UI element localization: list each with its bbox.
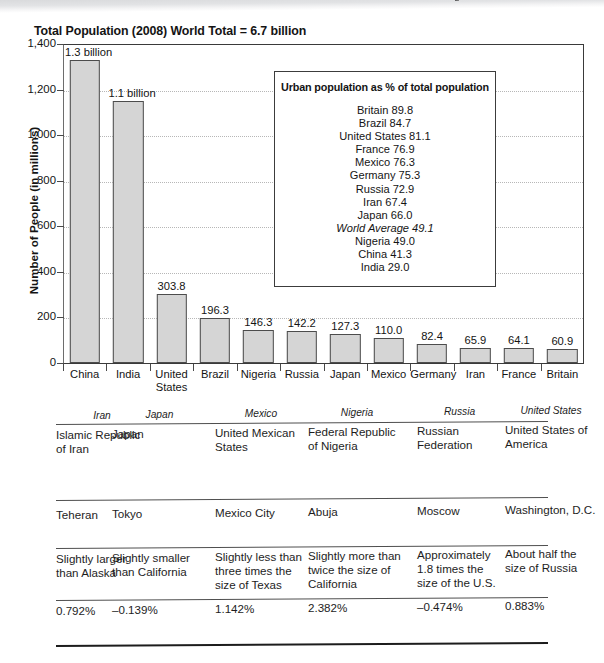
official-name-row-cell: Japan — [112, 427, 207, 441]
x-tick-mark — [237, 364, 238, 371]
table-column-header: United States — [505, 405, 597, 416]
x-category-label: Mexico — [367, 368, 410, 381]
urban-population-inset: Urban population as % of total populatio… — [274, 71, 496, 287]
official-name-row-cell: United Mexican States — [215, 426, 307, 454]
x-category-label: Germany — [410, 368, 453, 381]
x-category-label: India — [106, 368, 149, 381]
bar[interactable] — [156, 294, 186, 363]
y-tick-label: 800 — [8, 174, 56, 186]
x-category-label: Iran — [454, 368, 497, 381]
bar-slot: 303.8 — [150, 44, 193, 363]
area-comparison-row-cell: Approximately 1.8 times the size of the … — [417, 548, 502, 591]
area-comparison-row-cell: Slightly smaller than California — [112, 551, 207, 579]
bar-slot: 196.3 — [193, 44, 236, 363]
capital-row-cell: Washington, D.C. — [505, 503, 597, 517]
bar-value-label: 110.0 — [375, 324, 402, 336]
y-tick-mark — [57, 135, 64, 136]
official-name-row-cell: Federal Republic of Nigeria — [308, 425, 406, 453]
x-category-label: Britain — [541, 368, 584, 381]
bar[interactable] — [373, 338, 403, 363]
capital-row-cell: Tokyo — [112, 507, 207, 521]
inset-row: China 41.3 — [275, 248, 495, 261]
capital-row-cell: Moscow — [417, 504, 502, 518]
y-tick-label: 0 — [8, 356, 56, 368]
official-name-row-cell: United States of America — [505, 423, 597, 451]
x-category-label: China — [63, 368, 106, 381]
bar-slot: 60.9 — [541, 44, 584, 363]
scan-artifact-dot — [455, 0, 459, 1]
table-column-header: Japan — [112, 409, 207, 420]
x-tick-mark — [193, 364, 194, 371]
y-tick-label: 600 — [8, 219, 56, 231]
bar[interactable] — [200, 318, 230, 363]
bar-value-label: 64.1 — [508, 334, 530, 346]
x-tick-mark — [324, 364, 325, 371]
growth-rate-row-cell: 1.142% — [215, 602, 307, 616]
inset-row: Russia 72.9 — [275, 183, 495, 196]
x-category-label: France — [497, 368, 540, 381]
bar[interactable] — [417, 344, 447, 363]
inset-list: Britain 89.8Brazil 84.7United States 81.… — [275, 104, 495, 274]
x-tick-mark — [410, 364, 411, 371]
inset-row: France 76.9 — [275, 143, 495, 156]
inset-row: Britain 89.8 — [275, 104, 495, 117]
bar-value-label: 127.3 — [331, 320, 359, 332]
bar[interactable] — [287, 331, 317, 363]
y-tick-mark — [57, 44, 64, 45]
x-category-label: Nigeria — [237, 368, 280, 381]
bar-value-label: 303.8 — [158, 280, 186, 292]
inset-row: Japan 66.0 — [275, 209, 495, 222]
bar[interactable] — [330, 334, 360, 363]
chart-title: Total Population (2008) World Total = 6.… — [34, 24, 306, 38]
x-tick-mark — [280, 364, 281, 371]
inset-title: Urban population as % of total populatio… — [275, 81, 495, 93]
bar-value-label: 196.3 — [201, 304, 229, 316]
growth-rate-row-cell: –0.474% — [417, 600, 502, 614]
bar-slot: 1.1 billion — [106, 44, 149, 363]
x-tick-mark — [63, 364, 64, 371]
table-bottom-rule — [56, 642, 548, 647]
bar-value-label: 142.2 — [288, 317, 316, 329]
official-name-row-cell: Russian Federation — [417, 424, 502, 452]
x-category-label: United States — [150, 368, 193, 393]
bar[interactable] — [113, 101, 143, 363]
y-tick-label: 400 — [8, 265, 56, 277]
bar-slot: 1.3 billion — [63, 44, 106, 363]
inset-row: Mexico 76.3 — [275, 156, 495, 169]
area-comparison-row-cell: About half the size of Russia — [505, 547, 597, 575]
capital-row-cell: Mexico City — [215, 506, 307, 520]
inset-row: United States 81.1 — [275, 130, 495, 143]
country-facts-table: IranJapanMexicoNigeriaRussiaUnited State… — [0, 404, 604, 644]
bar[interactable] — [70, 60, 100, 363]
x-category-label: Russia — [280, 368, 323, 381]
growth-rate-row-cell: –0.139% — [112, 603, 207, 617]
x-tick-mark — [150, 364, 151, 371]
bar[interactable] — [460, 348, 490, 363]
y-tick-label: 200 — [8, 310, 56, 322]
growth-rate-row-cell: 2.382% — [308, 601, 406, 615]
x-category-label: Japan — [324, 368, 367, 381]
inset-row: India 29.0 — [275, 261, 495, 274]
inset-row: Nigeria 49.0 — [275, 235, 495, 248]
x-tick-mark — [106, 364, 107, 371]
scan-artifact-band — [0, 0, 604, 13]
population-bar-chart: Total Population (2008) World Total = 6.… — [0, 14, 604, 396]
inset-row: Brazil 84.7 — [275, 117, 495, 130]
y-axis-line — [63, 44, 64, 364]
y-tick-mark — [57, 272, 64, 273]
area-comparison-row-cell: Slightly less than three times the size … — [215, 550, 307, 593]
bar[interactable] — [243, 330, 273, 363]
y-tick-label: 1,400 — [8, 37, 56, 49]
capital-row-cell: Abuja — [308, 505, 406, 519]
y-tick-mark — [57, 90, 64, 91]
inset-row: Germany 75.3 — [275, 169, 495, 182]
y-tick-mark — [57, 226, 64, 227]
bar-value-label: 1.3 billion — [65, 46, 112, 58]
inset-row: Iran 67.4 — [275, 196, 495, 209]
bar[interactable] — [504, 348, 534, 363]
y-tick-mark — [57, 317, 64, 318]
bar[interactable] — [547, 349, 577, 363]
bar-slot: 64.1 — [497, 44, 540, 363]
table-rule — [56, 497, 548, 501]
growth-rate-row-cell: 0.883% — [505, 599, 597, 613]
